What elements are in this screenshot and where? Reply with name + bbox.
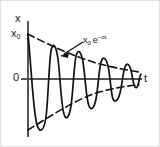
envelope-label-subscript: 0 [88, 40, 91, 46]
damped-oscillation-figure: x x0 0 t x0 e−αt [0, 0, 160, 147]
axis-label-x: x [15, 13, 21, 24]
origin-label: 0 [13, 72, 19, 83]
initial-amplitude-subscript: 0 [17, 33, 21, 40]
initial-amplitude-label: x0 [11, 28, 20, 40]
envelope-label-exponent: −αt [98, 34, 107, 40]
plot-area [1, 1, 160, 147]
axis-label-t: t [144, 73, 147, 84]
annotation-arrowhead [60, 52, 69, 58]
damped-oscillation-curve [28, 34, 141, 130]
envelope-annotation-label: x0 e−αt [83, 34, 106, 46]
